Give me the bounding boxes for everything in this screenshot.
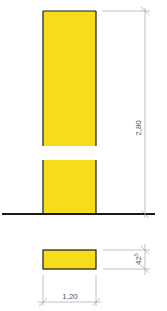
plan-block [43, 250, 96, 269]
depth-label: 425 [133, 253, 143, 265]
height-label: 2,80 [134, 120, 143, 136]
elevation-lower-block [43, 160, 96, 214]
height-dimension [102, 7, 150, 218]
architectural-diagram: 2,80 425 1,20 [0, 0, 167, 311]
width-dimension [38, 275, 101, 306]
width-label: 1,20 [62, 292, 78, 301]
elevation-upper-block [43, 11, 96, 146]
